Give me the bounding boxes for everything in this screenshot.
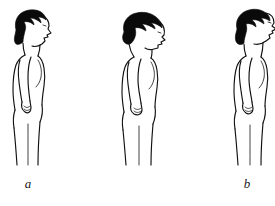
arm-back-a [18,60,22,102]
figure-b: b [110,0,200,175]
arm-front-b [138,59,141,103]
hand-fingers-b [134,108,141,113]
bust-line-a [36,60,41,87]
bust-line-c [259,61,264,88]
leg-back-b [123,130,126,165]
figure-c: c [222,0,275,175]
hair-a [14,10,46,45]
hand-fingers-a [24,106,30,111]
eye-a [43,25,46,26]
neck-back-b [129,44,134,57]
leg-front-c [261,123,263,165]
arm-front-a [28,57,31,101]
hip-front-a [40,105,42,122]
neck-back-c [244,44,246,56]
hand-fingers-c [245,107,252,112]
neck-front-a [38,45,40,56]
figure-b-drawing [110,0,200,175]
leg-back-a [14,128,17,165]
eye-b [158,32,161,33]
hip-back-b [122,112,124,130]
hip-back-c [234,111,236,129]
neck-back-a [23,43,25,55]
figure-a-drawing [0,0,90,175]
bust-line-b [149,62,154,89]
panel-caption-a: a [8,176,48,192]
leg-back-c [235,129,238,165]
panel-caption-b: b [227,176,267,192]
eye-c [268,22,271,23]
leg-front-a [38,122,40,165]
figure-panel: a [0,0,275,206]
figure-c-drawing [222,0,275,175]
hair-c [235,9,270,44]
torso-front-c [261,57,268,106]
arm-back-c [239,61,243,103]
face-profile-a [32,16,51,46]
arm-front-c [249,58,252,102]
hip-front-c [263,106,265,123]
hip-front-b [153,107,155,124]
torso-front-b [151,58,158,107]
figure-a: a [0,0,90,175]
arm-back-b [127,62,131,104]
neck-front-b [151,50,152,58]
neck-front-c [261,43,263,57]
hip-back-a [13,110,15,128]
torso-front-a [38,56,45,105]
leg-front-b [151,124,153,165]
hair-b [123,12,162,44]
